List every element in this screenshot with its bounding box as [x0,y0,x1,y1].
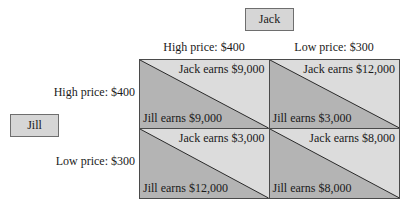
jack-payoff: Jack earns $8,000 [309,131,395,146]
jack-label-text: Jack [259,12,280,27]
payoff-matrix: Jack earns $9,000 Jill earns $9,000 Jack… [139,59,400,199]
row-label-low-price: Low price: $300 [56,154,135,169]
payoff-cell-high-low: Jack earns $12,000 Jill earns $3,000 [270,60,400,129]
row-label-high-price: High price: $400 [54,85,135,100]
jill-payoff: Jill earns $8,000 [273,181,352,196]
jill-payoff: Jill earns $3,000 [273,111,352,126]
jack-payoff: Jack earns $3,000 [179,131,265,146]
jack-payoff: Jack earns $12,000 [303,62,395,77]
jill-payoff: Jill earns $9,000 [143,111,222,126]
jack-payoff: Jack earns $9,000 [179,62,265,77]
payoff-cell-low-high: Jack earns $3,000 Jill earns $12,000 [140,129,270,198]
column-label-high-price: High price: $400 [139,40,269,55]
payoff-cell-low-low: Jack earns $8,000 Jill earns $8,000 [270,129,400,198]
jill-player-label: Jill [10,114,59,137]
column-label-low-price: Low price: $300 [269,40,399,55]
jill-label-text: Jill [27,118,42,133]
jack-player-label: Jack [245,8,294,31]
jill-payoff: Jill earns $12,000 [143,181,228,196]
payoff-cell-high-high: Jack earns $9,000 Jill earns $9,000 [140,60,270,129]
